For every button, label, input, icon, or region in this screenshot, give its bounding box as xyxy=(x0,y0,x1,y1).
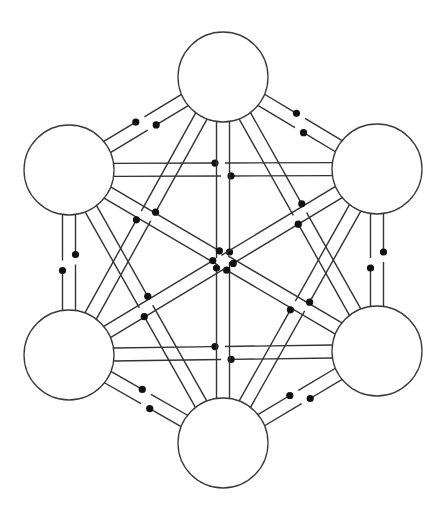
edge-upper-right-lower-right xyxy=(367,213,387,307)
wire-segment xyxy=(110,371,142,389)
edge-lower-left-upper-left xyxy=(59,214,79,311)
switch-contact-dot xyxy=(230,260,237,267)
wire-segment xyxy=(264,94,296,113)
switch-contact-dot xyxy=(211,343,218,350)
switch-contact-dot xyxy=(295,221,302,228)
edge-lower-right-bottom xyxy=(257,368,342,426)
node-upper-left xyxy=(24,125,114,215)
node-upper-right xyxy=(332,124,422,214)
wire-segment xyxy=(141,112,196,211)
switch-contact-dot xyxy=(132,118,139,125)
switch-contact-dot xyxy=(307,395,314,402)
switch-contact-dot xyxy=(59,267,66,274)
switch-contact-dot xyxy=(216,247,223,254)
wire-segment xyxy=(227,270,336,334)
switch-contact-dot xyxy=(139,386,146,393)
switch-contact-dot xyxy=(227,356,234,363)
wire-segment xyxy=(231,358,333,359)
wire-segment xyxy=(85,220,137,313)
switch-contact-dot xyxy=(144,293,151,300)
switch-contact-dot xyxy=(152,209,159,216)
wire-segment xyxy=(239,119,293,216)
edge-upper-right-lower-left xyxy=(103,186,342,338)
wire-segment xyxy=(257,396,289,415)
switch-contact-dot xyxy=(223,267,230,274)
switch-contact-dot xyxy=(213,264,220,271)
node-top xyxy=(178,32,268,122)
wire-segment xyxy=(239,310,291,402)
node-bottom xyxy=(178,398,268,488)
switch-contact-dot xyxy=(146,405,153,412)
wire-segment xyxy=(156,119,208,212)
wire-segment xyxy=(110,269,225,338)
wire-segment xyxy=(153,305,207,401)
wire-segment xyxy=(307,213,361,310)
switch-contact-dot xyxy=(133,216,140,223)
wire-segment xyxy=(104,198,218,265)
switch-contact-dot xyxy=(209,257,216,264)
switch-contact-dot xyxy=(211,159,218,166)
switch-contact-dot xyxy=(286,392,293,399)
wire-segment xyxy=(304,133,336,152)
switch-contact-dot xyxy=(153,121,160,128)
switch-contact-dot xyxy=(306,299,313,306)
switch-contact-dot xyxy=(293,110,300,117)
edge-bottom-lower-left xyxy=(104,371,188,427)
switch-contact-dot xyxy=(287,306,294,313)
switch-contact-dot xyxy=(298,200,305,207)
wire-segment xyxy=(96,221,151,320)
node-lower-right xyxy=(332,306,422,396)
wire-segment xyxy=(156,105,188,125)
nodes-layer xyxy=(24,32,422,488)
wire-segment xyxy=(295,204,349,301)
wire-segment xyxy=(113,347,215,348)
wire-segment xyxy=(103,261,212,327)
edge-lower-left-lower-right xyxy=(113,343,333,363)
wire-segment xyxy=(310,211,362,303)
node-lower-left xyxy=(24,310,114,400)
wire-segment xyxy=(85,212,139,308)
switch-contact-dot xyxy=(141,313,148,320)
switch-contact-dot xyxy=(72,251,79,258)
wire-segment xyxy=(113,360,221,361)
network-diagram xyxy=(0,0,444,516)
switch-contact-dot xyxy=(380,248,387,255)
wire-segment xyxy=(225,345,333,346)
wire-segment xyxy=(103,122,135,142)
switch-contact-dot xyxy=(300,129,307,136)
switch-contact-dot xyxy=(367,264,374,271)
wire-segment xyxy=(221,186,336,255)
edge-upper-left-top xyxy=(103,94,188,153)
wire-segment xyxy=(150,409,182,427)
edge-upper-left-lower-right xyxy=(104,187,343,335)
switch-contact-dot xyxy=(227,172,234,179)
wire-segment xyxy=(310,379,342,398)
wire-segment xyxy=(250,112,302,204)
edge-top-upper-right xyxy=(257,94,342,152)
wire-segment xyxy=(228,256,342,323)
edge-upper-left-upper-right xyxy=(113,159,333,179)
wire-segment xyxy=(233,197,342,263)
